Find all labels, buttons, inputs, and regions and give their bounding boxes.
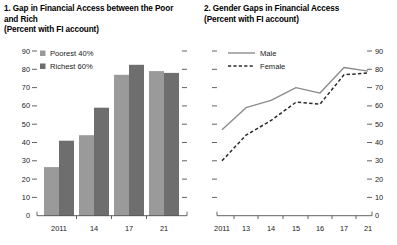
panel-2-series	[222, 68, 368, 161]
y-tick-label: 30	[22, 156, 30, 165]
panel-2: 2. Gender Gaps in Financial Access (Perc…	[200, 0, 397, 245]
bar-richest-14	[94, 108, 109, 216]
x-tick-label: 13	[242, 224, 250, 233]
line-male	[222, 68, 368, 130]
x-tick-label: 21	[160, 224, 168, 233]
bar-richest-2011	[59, 141, 74, 216]
legend-swatch-poorest	[40, 51, 46, 57]
bar-poorest-14	[79, 135, 94, 216]
legend-label-poorest: Poorest 40%	[50, 49, 94, 58]
y-tick-label: 20	[22, 175, 30, 184]
x-tick-label: 2011	[214, 224, 230, 233]
y-tick-label: 80	[375, 65, 383, 74]
x-tick-label: 17	[125, 224, 133, 233]
bar-poorest-21	[149, 71, 164, 216]
legend-label-richest: Richest 60%	[50, 62, 93, 71]
x-tick-label: 17	[340, 224, 348, 233]
legend-label-male: Male	[260, 49, 276, 58]
panel-1-bars	[44, 65, 179, 216]
y-tick-label: 0	[375, 211, 379, 220]
bar-poorest-2011	[44, 167, 59, 216]
y-tick-label: 90	[375, 47, 383, 56]
y-tick-label: 20	[375, 175, 383, 184]
x-tick-label: 14	[90, 224, 98, 233]
x-tick-label: 2011	[51, 224, 67, 233]
y-tick-label: 70	[375, 83, 383, 92]
panel-2-legend: Male Female	[228, 49, 285, 71]
y-tick-label: 70	[22, 83, 30, 92]
bar-richest-17	[129, 65, 144, 216]
y-tick-label: 90	[22, 47, 30, 56]
bar-richest-21	[164, 73, 179, 216]
panel-2-plot: 90 80 70 60 50 40 30 20 10 0	[200, 0, 397, 245]
y-tick-label: 60	[375, 101, 383, 110]
panel-2-x-axis: 2011 13 14 15 16 17 21	[214, 212, 372, 233]
panel-1-legend: Poorest 40% Richest 60%	[40, 49, 94, 71]
x-tick-label: 15	[292, 224, 300, 233]
y-tick-label: 50	[375, 120, 383, 129]
x-tick-label: 21	[364, 224, 372, 233]
x-tick-label: 16	[316, 224, 324, 233]
y-tick-label: 80	[22, 65, 30, 74]
bar-poorest-17	[114, 75, 129, 216]
line-female	[222, 73, 368, 161]
legend-swatch-richest	[40, 64, 46, 70]
y-tick-label: 30	[375, 156, 383, 165]
y-tick-label: 40	[375, 138, 383, 147]
legend-label-female: Female	[260, 62, 285, 71]
figure-container: 1. Gap in Financial Access between the P…	[0, 0, 397, 245]
y-tick-label: 40	[22, 138, 30, 147]
x-tick-label: 14	[267, 224, 275, 233]
y-tick-label: 10	[375, 193, 383, 202]
y-tick-label: 0	[26, 211, 30, 220]
panel-1: 1. Gap in Financial Access between the P…	[0, 0, 200, 245]
y-tick-label: 60	[22, 101, 30, 110]
y-tick-label: 50	[22, 120, 30, 129]
panel-2-y-axis: 90 80 70 60 50 40 30 20 10 0	[212, 47, 383, 221]
y-tick-label: 10	[22, 193, 30, 202]
panel-1-plot: 90 80 70 60 50 40 30 20 10 0	[0, 0, 200, 245]
